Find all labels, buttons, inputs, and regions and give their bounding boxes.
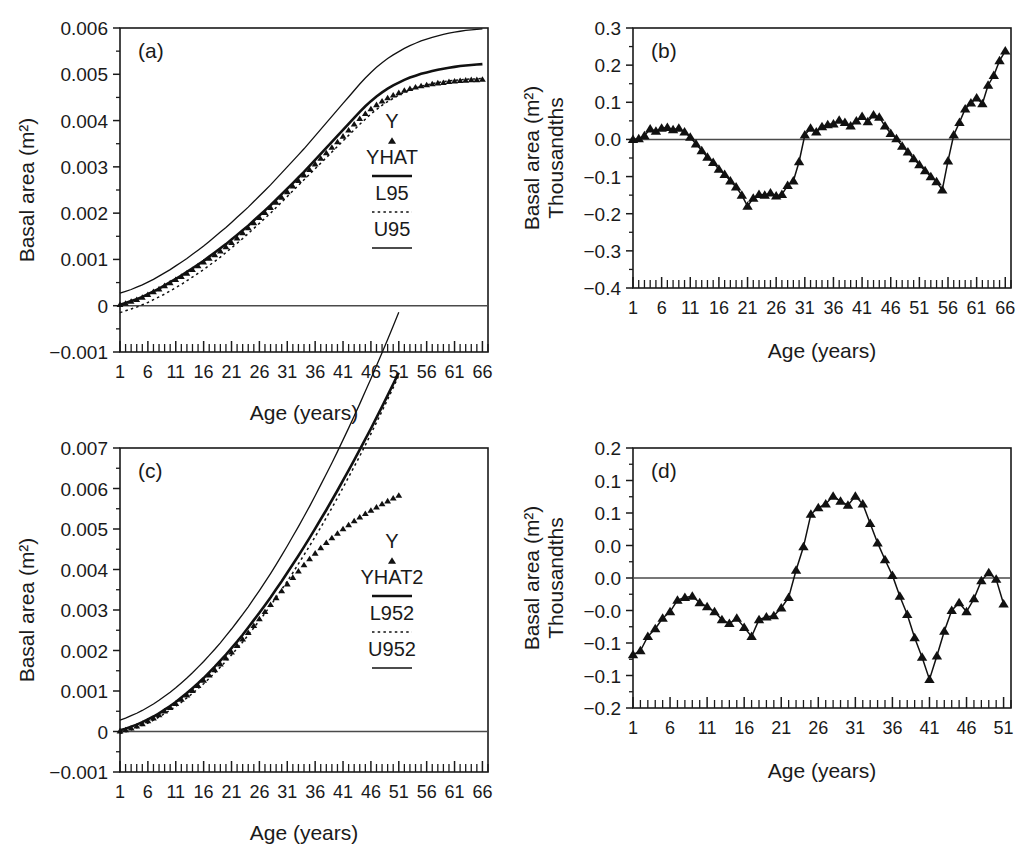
legend-label-u95: U95	[374, 218, 411, 240]
y-axis-title-line2: Thousandths	[544, 97, 567, 218]
panel-letter-label: (b)	[651, 39, 677, 62]
x-tick-label: 41	[919, 718, 939, 738]
data-marker-triangle	[340, 526, 347, 532]
x-tick-label: 16	[194, 362, 214, 382]
data-marker-triangle	[971, 93, 981, 101]
x-tick-label: 51	[389, 362, 409, 382]
x-tick-label: 46	[957, 718, 977, 738]
plot-frame	[120, 448, 488, 772]
x-tick-label: 56	[417, 362, 437, 382]
data-marker-triangle	[902, 609, 912, 617]
y-axis-title-group: Basal area (m²)	[15, 538, 38, 683]
x-tick-label: 6	[143, 362, 153, 382]
y-tick-label: 0.004	[60, 560, 108, 581]
x-tick-label: 51	[389, 782, 409, 802]
y-tick-label: 0	[97, 722, 108, 743]
x-tick-label: 61	[967, 298, 987, 318]
x-tick-label: 26	[249, 782, 269, 802]
data-marker-triangle	[880, 555, 890, 563]
y-axis-title-line1: Basal area (m²)	[520, 506, 543, 651]
data-marker-triangle	[1000, 46, 1010, 54]
data-marker-triangle	[317, 545, 324, 551]
data-marker-triangle	[368, 106, 375, 112]
x-axis-ticks: 16111621263136414651566166	[115, 761, 492, 802]
y-axis-title: Basal area (m²)	[15, 118, 38, 263]
figure-caption-ghost	[0, 828, 1026, 848]
series-path-l95	[120, 78, 482, 312]
x-tick-label: 41	[333, 782, 353, 802]
data-marker-triangle	[323, 540, 330, 546]
chart-legend: YYHAT2L952U952	[361, 530, 424, 668]
legend-label-y: Y	[385, 110, 398, 132]
y-tick-label: 0.3	[595, 18, 621, 39]
data-marker-triangle	[368, 507, 375, 513]
series-path-yhat2	[120, 373, 399, 731]
x-tick-label: 61	[445, 782, 465, 802]
x-tick-label: 21	[738, 298, 758, 318]
data-marker-triangle	[783, 593, 793, 601]
y-axis-title-group: Basal area (m²)Thousandths	[520, 506, 567, 651]
y-tick-label: 0.1	[595, 92, 621, 113]
legend-label-yhat2: YHAT2	[361, 566, 424, 588]
data-marker-triangle	[791, 565, 801, 573]
panel-a-chart: −0.00100.0010.0020.0030.0040.0050.006161…	[0, 0, 510, 420]
data-series-group	[628, 491, 1009, 683]
y-tick-label: 0.2	[595, 55, 621, 76]
x-tick-label: 36	[305, 782, 325, 802]
panel-letter-label: (a)	[138, 39, 164, 62]
x-tick-label: 11	[681, 298, 700, 318]
y-tick-label: 0.2	[595, 438, 621, 459]
x-tick-label: 51	[909, 298, 929, 318]
legend-label-y: Y	[385, 530, 398, 552]
x-tick-label: 26	[766, 298, 786, 318]
chart-legend: YYHATL95U95	[366, 110, 418, 248]
data-marker-triangle	[865, 518, 875, 526]
y-tick-label: −0.1	[583, 666, 621, 687]
data-marker-triangle	[939, 626, 949, 634]
y-axis-ticks: −0.00100.0010.0020.0030.0040.0050.0060.0…	[49, 438, 120, 783]
x-tick-label: 6	[143, 782, 153, 802]
data-marker-triangle	[828, 491, 838, 499]
data-marker-triangle	[777, 189, 787, 197]
x-axis-ticks: 16111621263136414651	[628, 697, 1014, 738]
data-marker-triangle	[857, 111, 867, 119]
x-tick-label: 41	[333, 362, 353, 382]
data-series-group	[628, 46, 1011, 210]
data-marker-triangle	[954, 117, 964, 125]
data-marker-triangle	[379, 501, 386, 507]
y-axis-title: Basal area (m²)	[15, 538, 38, 683]
y-tick-label: 0.0	[595, 129, 621, 150]
figure-canvas: −0.00100.0010.0020.0030.0040.0050.006161…	[0, 0, 1026, 848]
x-tick-label: 11	[166, 362, 185, 382]
legend-label-yhat: YHAT	[366, 146, 418, 168]
y-tick-label: 0.002	[60, 641, 108, 662]
x-tick-label: 6	[665, 718, 675, 738]
data-marker-triangle	[665, 607, 675, 615]
x-tick-label: 26	[808, 718, 828, 738]
data-marker-triangle	[949, 130, 959, 138]
data-marker-triangle	[407, 85, 414, 91]
y-tick-label: 0.002	[60, 203, 108, 224]
y-tick-label: 0.007	[60, 438, 108, 459]
x-tick-label: 66	[995, 298, 1015, 318]
data-marker-triangle	[998, 599, 1008, 607]
x-tick-label: 11	[166, 782, 185, 802]
panel-letter-label: (c)	[138, 459, 163, 482]
x-axis-title: Age (years)	[768, 759, 877, 782]
y-tick-label: −0.001	[49, 342, 108, 363]
data-marker-triangle	[932, 651, 942, 659]
x-tick-label: 6	[657, 298, 667, 318]
y-tick-label: −0.0	[583, 601, 621, 622]
data-marker-triangle	[909, 633, 919, 641]
y-tick-label: 0.005	[60, 64, 108, 85]
y-tick-label: 0.001	[60, 249, 108, 270]
x-tick-label: 46	[881, 298, 901, 318]
x-tick-label: 31	[795, 298, 815, 318]
data-marker-triangle	[395, 492, 402, 498]
x-tick-label: 21	[221, 362, 241, 382]
y-axis-title-line2: Thousandths	[544, 517, 567, 638]
legend-label-l95: L95	[375, 182, 408, 204]
panel-b-chart: −0.4−0.3−0.2−0.10.00.10.20.3161116212631…	[505, 0, 1026, 420]
x-tick-label: 16	[734, 718, 754, 738]
y-tick-label: 0.0	[595, 568, 621, 589]
